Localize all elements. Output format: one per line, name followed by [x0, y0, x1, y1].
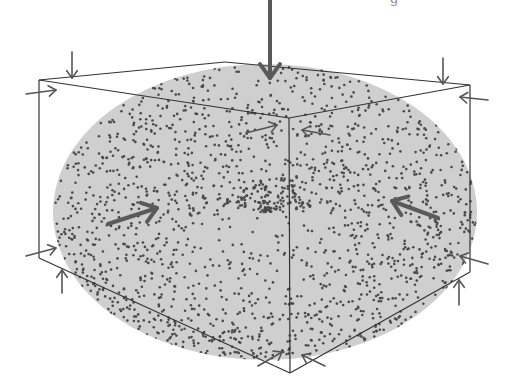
particle — [416, 272, 419, 275]
particle — [207, 114, 210, 117]
particle — [257, 339, 260, 342]
particle — [400, 172, 403, 175]
particle — [329, 178, 332, 181]
particle — [101, 162, 104, 165]
particle — [181, 253, 184, 256]
particle — [444, 257, 447, 260]
particle — [145, 190, 148, 193]
particle — [254, 302, 257, 305]
particle — [394, 317, 397, 320]
particle — [425, 198, 428, 201]
particle — [251, 304, 254, 307]
particle — [454, 150, 457, 153]
particle — [422, 152, 425, 155]
particle — [211, 135, 214, 138]
particle — [319, 201, 322, 204]
particle — [376, 233, 379, 236]
particle — [204, 125, 207, 128]
particle — [159, 115, 162, 118]
particle — [460, 169, 463, 172]
particle — [420, 124, 423, 127]
particle — [425, 250, 428, 253]
particle — [241, 197, 244, 200]
particle — [126, 259, 129, 262]
particle — [116, 257, 119, 260]
particle — [130, 222, 133, 225]
particle — [416, 128, 419, 131]
particle — [260, 168, 263, 171]
particle — [301, 330, 304, 333]
particle — [376, 308, 379, 311]
particle — [172, 328, 175, 331]
particle — [230, 138, 233, 141]
particle — [252, 257, 255, 260]
particle — [161, 275, 164, 278]
particle — [183, 229, 186, 232]
particle — [197, 342, 200, 345]
particle — [410, 163, 413, 166]
particle — [318, 129, 321, 132]
particle — [314, 115, 317, 118]
particle — [257, 201, 260, 204]
top-center-arrow — [260, 0, 280, 78]
particle — [173, 249, 176, 252]
particle — [220, 98, 223, 101]
particle — [157, 145, 160, 148]
particle — [156, 152, 159, 155]
particle — [461, 223, 464, 226]
particle — [135, 176, 138, 179]
particle — [453, 186, 456, 189]
particle — [251, 193, 254, 196]
particle — [358, 298, 361, 301]
particle — [284, 163, 287, 166]
particle — [178, 225, 181, 228]
particle — [135, 130, 138, 133]
particle — [354, 123, 357, 126]
particle — [347, 132, 350, 135]
particle — [253, 156, 256, 159]
particle — [310, 132, 313, 135]
particle — [280, 202, 283, 205]
particle — [166, 105, 169, 108]
particle — [368, 276, 371, 279]
particle — [184, 105, 187, 108]
particle — [231, 194, 234, 197]
particle — [367, 204, 370, 207]
particle — [92, 194, 95, 197]
particle — [377, 237, 380, 240]
particle — [291, 90, 294, 93]
particle — [425, 182, 428, 185]
particle — [159, 250, 162, 253]
particle — [311, 103, 314, 106]
particle — [134, 141, 137, 144]
particle — [403, 243, 406, 246]
particle — [321, 287, 324, 290]
particle — [387, 262, 390, 265]
particle — [282, 200, 285, 203]
particle — [342, 172, 345, 175]
particle — [135, 233, 138, 236]
particle — [357, 207, 360, 210]
top-right-left-arrow — [460, 93, 488, 104]
particle — [377, 199, 380, 202]
particle — [150, 130, 153, 133]
particle — [268, 343, 271, 346]
particle — [338, 333, 341, 336]
particle — [463, 231, 466, 234]
particle — [242, 299, 245, 302]
particle — [331, 140, 334, 143]
particle — [139, 221, 142, 224]
particle — [200, 175, 203, 178]
particle — [451, 254, 454, 257]
particle — [164, 184, 167, 187]
particle — [76, 211, 79, 214]
particle — [396, 131, 399, 134]
particle — [357, 109, 360, 112]
particle — [113, 121, 116, 124]
particle — [218, 172, 221, 175]
particle — [218, 265, 221, 268]
particle — [124, 196, 127, 199]
particle — [424, 238, 427, 241]
particle — [382, 138, 385, 141]
particle — [321, 298, 324, 301]
